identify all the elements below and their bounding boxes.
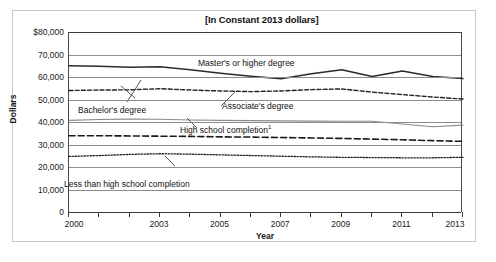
x-axis-tick	[371, 212, 372, 217]
chart-title: [In Constant 2013 dollars]	[205, 14, 319, 25]
y-axis-tick-label: 30,000	[38, 140, 64, 150]
leader-line	[165, 156, 175, 166]
x-axis-tick	[280, 212, 281, 217]
x-axis-tick	[310, 212, 311, 217]
x-axis-tick	[189, 212, 190, 217]
gridline	[69, 190, 461, 191]
highschool-label: High school completion1	[180, 124, 271, 135]
x-axis-tick-label: 2011	[392, 219, 410, 229]
gridline	[69, 55, 461, 56]
x-axis-tick	[462, 212, 463, 217]
x-axis-tick	[341, 212, 342, 217]
x-axis-ticks	[68, 212, 462, 218]
y-axis-tick-label: $80,000	[33, 27, 64, 37]
x-axis-tick-label: 2000	[65, 219, 84, 229]
gridline	[69, 145, 461, 146]
y-axis-tick-label: 40,000	[38, 117, 64, 127]
gridline	[69, 167, 461, 168]
chart-figure: [In Constant 2013 dollars] Dollars $80,0…	[0, 0, 496, 262]
y-axis-tick-label: 10,000	[38, 185, 64, 195]
x-axis-tick-label: 2005	[210, 219, 229, 229]
gridline	[69, 77, 461, 78]
x-axis-tick	[401, 212, 402, 217]
y-axis-tick-label: 0	[59, 207, 64, 217]
associates-label: Associate's degree	[222, 101, 294, 111]
masters-label: Master's or higher degree	[198, 58, 295, 68]
y-axis-tick-labels: $80,00070,00060,00050,00040,00030,00020,…	[0, 32, 64, 212]
x-axis-tick-label: 2009	[331, 219, 350, 229]
gridline	[69, 32, 461, 33]
x-axis-tick	[129, 212, 130, 217]
x-axis-tick	[250, 212, 251, 217]
x-axis-tick-label: 2007	[271, 219, 290, 229]
x-axis-tick	[159, 212, 160, 217]
x-axis-tick-label: 2013	[446, 219, 465, 229]
x-axis-tick	[68, 212, 69, 217]
y-axis-tick-label: 60,000	[38, 72, 64, 82]
x-axis-tick-label: 2003	[149, 219, 168, 229]
x-axis-tick	[432, 212, 433, 217]
footnote-marker: 1	[268, 124, 271, 130]
y-axis-tick-label: 70,000	[38, 50, 64, 60]
y-axis-tick-label: 20,000	[38, 162, 64, 172]
x-axis-title: Year	[68, 231, 462, 241]
x-axis-tick	[98, 212, 99, 217]
bachelors-label: Bachelor's degree	[78, 105, 146, 115]
x-axis-tick	[220, 212, 221, 217]
y-axis-tick-label: 50,000	[38, 95, 64, 105]
gridline	[69, 122, 461, 123]
lessthanhs-label: Less than high school completion	[64, 179, 190, 189]
